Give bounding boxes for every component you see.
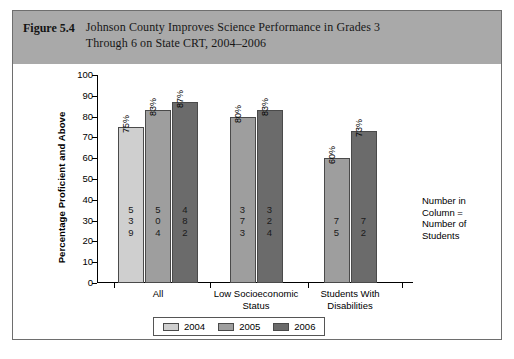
bar[interactable]: 80%373 — [230, 117, 256, 283]
bar[interactable]: 87%482 — [172, 102, 198, 283]
bar[interactable]: 75%539 — [118, 127, 144, 283]
figure-title: Johnson County Improves Science Performa… — [86, 20, 380, 51]
y-axis-title-text: Percentage Proficient and Above — [57, 112, 68, 264]
bar[interactable]: 60%75 — [324, 158, 350, 283]
bar[interactable]: 73%72 — [351, 131, 377, 283]
bar[interactable]: 83%504 — [145, 110, 171, 283]
count-digit: 2 — [173, 227, 197, 239]
count-digit: 4 — [146, 227, 170, 239]
chart-plot-body: Percentage Proficient and Above 10090807… — [13, 64, 501, 339]
count-digit: 4 — [173, 204, 197, 216]
x-category-label-line: Disabilities — [280, 300, 420, 312]
annotation-line-2: Column = — [422, 207, 496, 219]
y-tick-mark — [92, 75, 97, 76]
bar-value-label: 87% — [175, 90, 185, 108]
y-tick-mark — [92, 241, 97, 242]
figure-number-label: Figure 5.4 — [23, 20, 75, 36]
bar-value-label: 73% — [354, 119, 364, 137]
y-tick-mark — [92, 96, 97, 97]
bar-group: 60%7573%72 — [324, 75, 377, 283]
bar-student-count: 324 — [258, 204, 282, 239]
count-digit: 3 — [119, 215, 143, 227]
legend-item[interactable]: 2006 — [273, 321, 315, 332]
annotation-line-4: Students — [422, 230, 496, 242]
count-digit: 8 — [173, 215, 197, 227]
count-digit: 5 — [119, 204, 143, 216]
y-tick-mark — [92, 200, 97, 201]
y-axis-tick-labels: 1009080706050403020100 — [69, 75, 93, 283]
bar-student-count: 75 — [325, 215, 349, 238]
count-digit: 5 — [325, 227, 349, 239]
bar[interactable]: 83%324 — [257, 110, 283, 283]
y-tick-mark — [92, 262, 97, 263]
bar-student-count: 504 — [146, 204, 170, 239]
chart-legend: 200420052006 — [153, 317, 325, 336]
x-tick-mark — [114, 283, 115, 288]
count-digit: 3 — [258, 204, 282, 216]
y-tick-mark — [92, 137, 97, 138]
bar-student-count: 373 — [231, 204, 255, 239]
y-tick-mark — [92, 221, 97, 222]
chart-annotation-note: Number in Column = Number of Students — [422, 195, 496, 242]
bar-value-label: 75% — [121, 115, 131, 133]
annotation-line-1: Number in — [422, 195, 496, 207]
figure-header: Figure 5.4 Johnson County Improves Scien… — [13, 11, 501, 64]
count-digit: 4 — [258, 227, 282, 239]
bar-student-count: 539 — [119, 204, 143, 239]
count-digit: 7 — [325, 215, 349, 227]
x-tick-mark — [402, 283, 403, 288]
y-axis-title: Percentage Proficient and Above — [54, 80, 70, 295]
y-tick-mark — [92, 117, 97, 118]
figure-container: Figure 5.4 Johnson County Improves Scien… — [12, 10, 502, 340]
count-digit: 9 — [119, 227, 143, 239]
bars-plot-area: 75%53983%50487%48280%37383%32460%7573%72 — [98, 75, 413, 283]
count-digit: 3 — [231, 204, 255, 216]
x-category-label: Students WithDisabilities — [280, 288, 420, 311]
y-tick-label: 100 — [77, 70, 93, 80]
bar-student-count: 72 — [352, 215, 376, 238]
bar-value-label: 60% — [327, 146, 337, 164]
bar-value-label: 80% — [233, 105, 243, 123]
y-tick-mark — [92, 158, 97, 159]
count-digit: 7 — [352, 215, 376, 227]
bar-student-count: 482 — [173, 204, 197, 239]
legend-item[interactable]: 2004 — [163, 321, 205, 332]
bar-value-label: 83% — [148, 98, 158, 116]
count-digit: 5 — [146, 204, 170, 216]
annotation-line-3: Number of — [422, 218, 496, 230]
figure-title-line-1: Johnson County Improves Science Performa… — [86, 20, 380, 36]
count-digit: 2 — [258, 215, 282, 227]
bar-group: 75%53983%50487%482 — [118, 75, 198, 283]
bar-group: 80%37383%324 — [230, 75, 283, 283]
bar-value-label: 83% — [260, 98, 270, 116]
legend-item[interactable]: 2005 — [218, 321, 260, 332]
count-digit: 2 — [352, 227, 376, 239]
count-digit: 3 — [231, 227, 255, 239]
count-digit: 7 — [231, 215, 255, 227]
legend-swatch — [163, 323, 179, 331]
legend-label: 2005 — [239, 321, 260, 332]
legend-swatch — [273, 323, 289, 331]
y-tick-mark — [92, 283, 97, 284]
legend-label: 2006 — [294, 321, 315, 332]
figure-title-line-2: Through 6 on State CRT, 2004–2006 — [86, 36, 380, 52]
legend-label: 2004 — [184, 321, 205, 332]
count-digit: 0 — [146, 215, 170, 227]
x-category-label-line: Students With — [280, 288, 420, 300]
legend-swatch — [218, 323, 234, 331]
y-tick-mark — [92, 179, 97, 180]
